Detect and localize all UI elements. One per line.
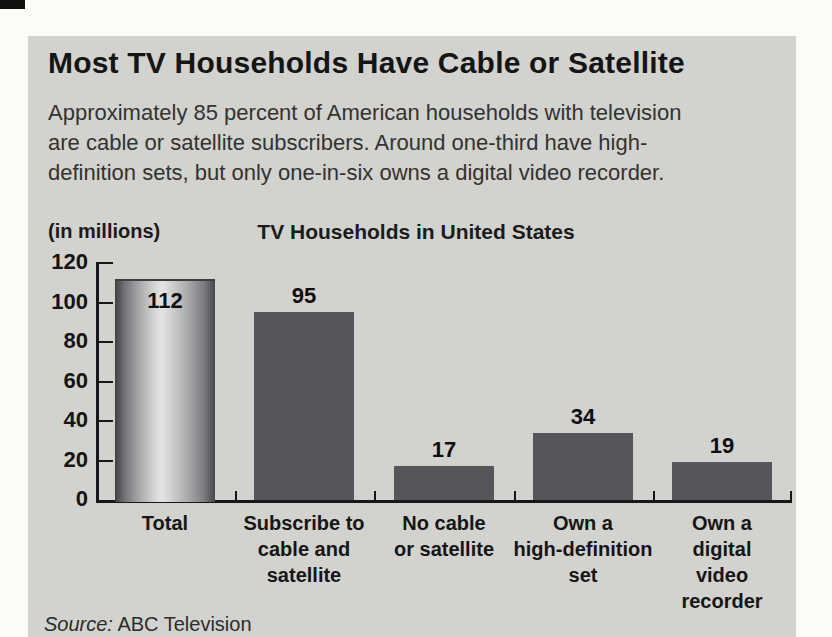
bar-series: [533, 433, 633, 500]
source-value: ABC Television: [117, 613, 251, 635]
bar-series: [254, 312, 354, 500]
bar-value-label: 17: [374, 437, 514, 463]
x-axis-tick: [235, 491, 237, 500]
x-axis-tick: [514, 491, 516, 500]
x-axis-tick: [374, 491, 376, 500]
y-axis-tick: [99, 262, 113, 264]
infographic-panel: Most TV Households Have Cable or Satelli…: [28, 36, 796, 637]
y-axis-tick: [99, 460, 113, 462]
bar-chart: 020406080100120112Total95Subscribe to ca…: [28, 36, 796, 637]
bar-value-label: 112: [95, 288, 235, 314]
scan-artifact: [0, 0, 25, 9]
source-note: Source: ABC Television: [44, 613, 252, 636]
category-label: Own a digital video recorder: [640, 510, 804, 614]
bar-value-label: 95: [234, 283, 374, 309]
y-axis-tick-label: 0: [28, 486, 88, 512]
y-axis-tick: [99, 341, 113, 343]
y-axis-tick-label: 40: [28, 407, 88, 433]
y-axis-tick: [99, 381, 113, 383]
y-axis-tick-label: 20: [28, 447, 88, 473]
x-axis-tick: [653, 491, 655, 500]
y-axis-tick-label: 60: [28, 368, 88, 394]
bar-value-label: 34: [513, 404, 653, 430]
bar-series: [672, 462, 772, 500]
y-axis-tick-label: 100: [28, 289, 88, 315]
y-axis-tick-label: 80: [28, 328, 88, 354]
x-axis-end-tick: [790, 491, 792, 500]
y-axis-tick: [99, 420, 113, 422]
bar-series: [394, 466, 494, 500]
source-label: Source:: [44, 613, 113, 635]
y-axis-tick-label: 120: [28, 249, 88, 275]
bar-value-label: 19: [652, 433, 792, 459]
